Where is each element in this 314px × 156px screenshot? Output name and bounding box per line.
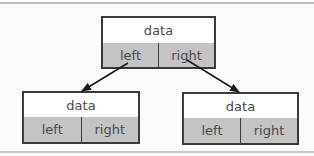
- right-child-node-pointers: left right: [184, 118, 297, 143]
- left-child-node: data left right: [22, 91, 140, 144]
- right-child-node-data-field: data: [184, 94, 297, 120]
- bottom-border-line: [0, 151, 314, 153]
- root-node-right-pointer: right: [159, 43, 214, 67]
- root-node-left-pointer: left: [103, 43, 159, 67]
- right-child-node: data left right: [182, 92, 299, 145]
- left-child-node-pointers: left right: [24, 117, 138, 142]
- right-child-node-right-pointer: right: [241, 118, 297, 143]
- root-node-data-field: data: [103, 18, 214, 45]
- top-border-line: [0, 2, 314, 4]
- left-child-node-right-pointer: right: [82, 117, 139, 142]
- root-node: data left right: [101, 16, 216, 69]
- left-child-node-left-pointer: left: [24, 117, 82, 142]
- right-child-node-left-pointer: left: [184, 118, 241, 143]
- left-child-node-data-field: data: [24, 93, 138, 119]
- diagram-canvas: data left right data left right data lef…: [0, 0, 314, 156]
- root-node-pointers: left right: [103, 43, 214, 67]
